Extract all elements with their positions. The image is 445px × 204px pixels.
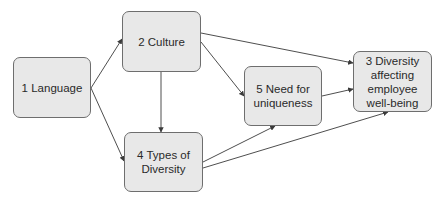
edge-1-to-4: [91, 88, 124, 161]
node-label: 2 Culture: [138, 35, 185, 49]
node-4: 4 Types of Diversity: [124, 132, 203, 192]
diagram-canvas: 1 Language2 Culture3 Diversity affecting…: [0, 0, 445, 204]
edge-4-to-5: [203, 126, 275, 162]
edge-2-to-5: [201, 42, 244, 96]
edge-2-to-3: [201, 33, 353, 63]
node-label: 4 Types of Diversity: [137, 148, 190, 176]
node-3: 3 Diversity affecting employee well-bein…: [353, 51, 432, 112]
node-label: 5 Need for uniqueness: [254, 82, 313, 110]
node-2: 2 Culture: [122, 11, 201, 72]
node-label: 1 Language: [22, 81, 83, 95]
node-1: 1 Language: [13, 57, 91, 118]
node-label: 3 Diversity affecting employee well-bein…: [366, 54, 420, 110]
edge-5-to-3: [322, 89, 353, 96]
edge-1-to-2: [91, 39, 122, 88]
node-5: 5 Need for uniqueness: [244, 66, 322, 126]
